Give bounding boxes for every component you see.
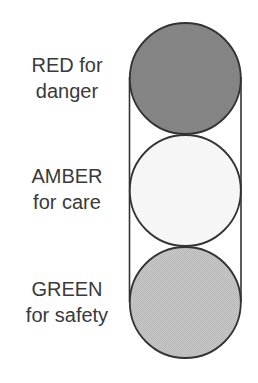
green-light xyxy=(130,247,241,358)
traffic-light xyxy=(0,0,258,383)
amber-light xyxy=(130,135,241,246)
red-light xyxy=(130,23,241,134)
